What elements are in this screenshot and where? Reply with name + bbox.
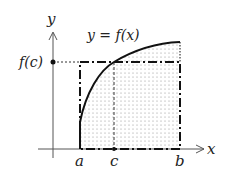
fc-label: f(c) (18, 54, 43, 70)
mean-value-diagram: y x y = f(x) f(c) a c b (0, 0, 230, 182)
y-axis-label: y (46, 10, 56, 28)
y-axis (49, 32, 57, 158)
b-label: b (175, 152, 185, 170)
c-point (112, 147, 116, 151)
shaded-area (78, 38, 182, 150)
x-axis-label: x (207, 140, 216, 158)
c-label: c (110, 152, 119, 170)
curve-label: y = f(x) (86, 27, 140, 43)
fc-point (51, 60, 56, 65)
a-label: a (75, 152, 84, 170)
